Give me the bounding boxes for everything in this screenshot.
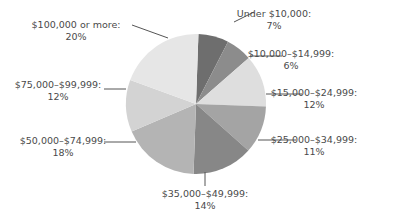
pie-slices [126, 34, 266, 174]
slice-label: $10,000–$14,999: [248, 48, 335, 59]
slice-percent: 12% [303, 99, 324, 110]
slice-percent: 7% [266, 20, 281, 31]
slice-percent: 11% [303, 146, 324, 157]
slice-label: $25,000–$34,999: [271, 134, 358, 145]
income-pie-chart: Under $10,000:7%$10,000–$14,999:6%$15,00… [0, 0, 397, 221]
slice-label: $100,000 or more: [32, 19, 121, 30]
slice-percent: 14% [194, 200, 215, 211]
slice-percent: 12% [47, 91, 68, 102]
slice-percent: 6% [283, 60, 298, 71]
slice-percent: 18% [52, 147, 73, 158]
slice-label: Under $10,000: [237, 8, 311, 19]
slice-label: $50,000–$74,999: [20, 135, 107, 146]
slice-label: $15,000–$24,999: [271, 87, 358, 98]
slice-percent: 20% [65, 31, 86, 42]
leader-line [132, 25, 168, 38]
slice-label: $35,000–$49,999: [162, 188, 249, 199]
slice-label: $75,000–$99,999: [15, 79, 102, 90]
